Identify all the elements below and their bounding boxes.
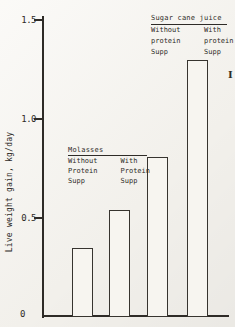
molasses-with-label: With Protein Supp bbox=[120, 156, 150, 186]
y-tick-mark-1-0 bbox=[34, 118, 43, 120]
sugarcane-title: Sugar cane juice bbox=[151, 13, 227, 25]
sugarcane-group-label: Sugar cane juice Without protein Supp Wi… bbox=[151, 13, 235, 58]
y-tick-label-0: 0 bbox=[20, 309, 25, 319]
y-tick-mark-1-5 bbox=[34, 19, 43, 21]
molasses-without-label: Without Protein Supp bbox=[68, 156, 120, 186]
y-axis-line bbox=[42, 16, 44, 318]
bar-molasses-without-protein-supp bbox=[72, 248, 93, 317]
error-bar-mark: I bbox=[228, 70, 233, 80]
bar-molasses-with-protein-supp bbox=[109, 210, 130, 317]
sugarcane-with-label: With protein Supp bbox=[204, 25, 234, 58]
bar-sugarcane-without-protein-supp bbox=[147, 157, 168, 317]
bar-chart-figure: Live weight gain, kg/day 1.5 1.0 0.5 0 M… bbox=[0, 0, 235, 327]
sugarcane-without-label: Without protein Supp bbox=[151, 25, 204, 58]
molasses-group-label: Molasses Without Protein Supp With Prote… bbox=[68, 145, 150, 186]
molasses-title: Molasses bbox=[68, 145, 147, 156]
y-tick-mark-0-5 bbox=[34, 217, 43, 219]
bar-sugarcane-with-protein-supp bbox=[187, 60, 208, 317]
y-axis-title: Live weight gain, kg/day bbox=[5, 132, 14, 252]
